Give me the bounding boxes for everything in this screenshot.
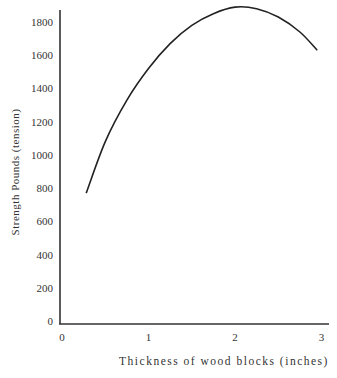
x-tick-label: 1	[146, 331, 152, 343]
y-tick-label: 1400	[31, 82, 54, 94]
x-tick-label: 0	[59, 331, 65, 343]
line-chart: 020040060080010001200140016001800 0123 T…	[0, 0, 337, 378]
x-tick-label: 3	[319, 331, 325, 343]
x-axis: 0123	[59, 324, 329, 343]
strength-curve	[86, 7, 317, 193]
y-tick-label: 200	[37, 282, 54, 294]
y-axis: 020040060080010001200140016001800	[31, 10, 60, 327]
y-axis-label: Strength Pounds (tension)	[9, 109, 22, 236]
x-tick-labels: 0123	[59, 331, 325, 343]
y-tick-label: 1200	[31, 116, 54, 128]
y-tick-label: 0	[48, 315, 54, 327]
y-tick-label: 600	[37, 215, 54, 227]
y-tick-labels: 020040060080010001200140016001800	[31, 16, 54, 327]
x-axis-label: Thickness of wood blocks (inches)	[119, 355, 329, 368]
x-tick-label: 2	[232, 331, 238, 343]
y-tick-label: 1600	[31, 49, 54, 61]
y-tick-label: 1000	[31, 149, 54, 161]
y-tick-label: 800	[37, 182, 54, 194]
y-tick-label: 400	[37, 249, 54, 261]
y-tick-label: 1800	[31, 16, 54, 28]
